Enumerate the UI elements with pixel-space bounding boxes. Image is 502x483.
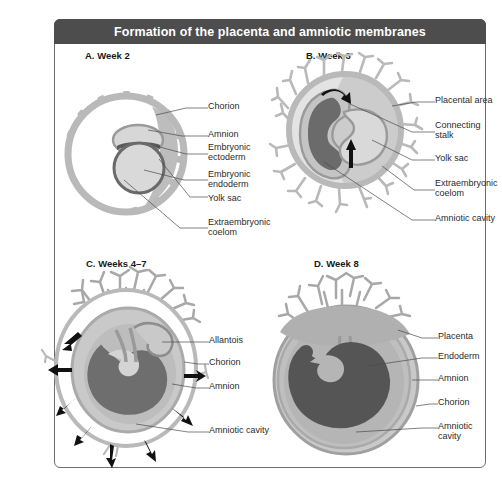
panel-a: A. Week 2 [60,50,260,250]
diagram-root: Formation of the placenta and amniotic m… [0,0,502,483]
panel-a-label-embryonic-ectoderm-1: Embryonic [208,142,251,153]
panel-c-label-amnion: Amnion [209,381,240,392]
panel-b-label-placental-area: Placental area [435,95,493,106]
panel-b-label-extraembryonic-coelom-2: coelom [435,188,464,199]
panel-d-label-chorion: Chorion [438,397,470,408]
panel-d-label-amnion: Amnion [438,373,469,384]
panel-c-label-allantois: Allantois [209,335,243,346]
panel-a-label-extraembryonic-coelom-1: Extraembryonic [208,217,271,228]
panel-d-label-endoderm: Endoderm [438,351,480,362]
panel-c-label-amniotic-cavity: Amniotic cavity [209,425,269,436]
panel-a-label-extraembryonic-coelom-2: coelom [208,227,237,238]
panel-a-label-embryonic-endoderm-1: Embryonic [208,169,251,180]
page-title: Formation of the placenta and amniotic m… [114,25,426,39]
placenta-mass-d [280,306,410,346]
panel-c: C. Weeks 4–7 [38,258,260,468]
fetus-d [295,349,383,421]
panel-d-label-placenta: Placenta [438,331,473,342]
panel-d-label-amniotic-cavity-2: cavity [438,431,461,442]
panel-b-label-connecting-stalk-2: stalk [435,130,454,141]
panel-c-label-chorion: Chorion [209,357,241,368]
panel-a-label-chorion: Chorion [208,101,240,112]
panel-b: B. Week 3 [272,50,482,250]
panel-a-label-embryonic-endoderm-2: endoderm [208,179,249,190]
panel-a-label-yolk-sac: Yolk sac [208,193,241,204]
yolk-sac-a [114,143,164,193]
panel-b-label-extraembryonic-coelom-1: Extraembryonic [435,178,498,189]
panel-d-label-amniotic-cavity-1: Amniotic [438,421,473,432]
panel-a-label-embryonic-ectoderm-2: ectoderm [208,152,246,163]
panel-a-label-amnion: Amnion [208,129,239,140]
panel-b-label-yolk-sac: Yolk sac [435,153,468,164]
panel-b-label-connecting-stalk-1: Connecting [435,120,481,131]
panel-b-label-amniotic-cavity: Amniotic cavity [435,213,495,224]
panel-d: D. Week 8 [272,258,484,468]
diagram-title-bar: Formation of the placenta and amniotic m… [54,19,486,44]
